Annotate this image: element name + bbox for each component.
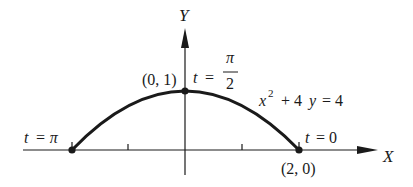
param-eq-right: = 0 [316,129,337,146]
x-axis-arrow-icon [357,146,378,154]
param-t-top: t [193,69,198,86]
point-0-1 [181,87,188,94]
param-denominator-2: 2 [226,75,234,92]
param-eq-left: = π [35,129,59,146]
equation-x: x [258,92,266,109]
point-t-pi [68,146,75,153]
equation-exponent: 2 [268,87,274,99]
param-t-right: t [305,129,310,146]
param-t-left: t [24,129,29,146]
y-axis-label: Y [179,6,190,25]
param-eq-top: = [205,69,214,86]
point-label-0-1: (0, 1) [142,71,177,89]
equation-equals-4: = 4 [322,92,343,109]
equation-plus-4: + 4 [281,92,302,109]
param-numerator-pi: π [226,49,235,66]
point-label-2-0: (2, 0) [281,160,316,178]
point-2-0 [295,146,302,153]
parametric-curve-diagram: Y X (0, 1) t = π 2 x 2 + 4 y = 4 t = π t… [0,0,413,187]
x-axis-label: X [382,147,394,166]
equation-y: y [307,92,317,110]
y-axis-arrow-icon [181,28,189,48]
